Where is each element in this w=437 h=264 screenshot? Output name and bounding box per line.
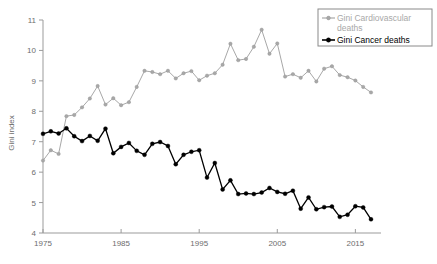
y-tick-label: 10 bbox=[27, 46, 36, 55]
x-tick-label: 1995 bbox=[190, 239, 208, 248]
data-point-cancer bbox=[260, 191, 264, 195]
data-point-cancer bbox=[361, 205, 365, 209]
data-point-cancer bbox=[57, 132, 61, 136]
data-point-cvd bbox=[307, 69, 310, 72]
data-point-cancer bbox=[182, 153, 186, 157]
data-point-cancer bbox=[135, 149, 139, 153]
data-point-cvd bbox=[197, 79, 200, 82]
data-point-cvd bbox=[221, 63, 224, 66]
data-point-cancer bbox=[369, 217, 373, 221]
data-point-cancer bbox=[267, 186, 271, 190]
y-axis: 4567891011 bbox=[27, 16, 43, 238]
line-chart: 4567891011 19751985199520052015 Gini Car… bbox=[0, 0, 437, 264]
data-point-cancer bbox=[197, 148, 201, 152]
data-point-cvd bbox=[330, 65, 333, 68]
data-point-cancer bbox=[49, 129, 53, 133]
data-point-cvd bbox=[283, 75, 286, 78]
data-point-cancer bbox=[353, 204, 357, 208]
y-tick-label: 8 bbox=[32, 107, 37, 116]
data-point-cvd bbox=[244, 57, 247, 60]
x-tick-label: 2015 bbox=[346, 239, 364, 248]
data-point-cancer bbox=[111, 151, 115, 155]
data-point-cvd bbox=[73, 113, 76, 116]
data-point-cancer bbox=[252, 192, 256, 196]
chart-container: 4567891011 19751985199520052015 Gini Car… bbox=[0, 0, 437, 264]
data-point-cancer bbox=[119, 145, 123, 149]
data-point-cvd bbox=[182, 72, 185, 75]
legend-marker-dot-cancer bbox=[326, 38, 330, 42]
data-point-cancer bbox=[221, 187, 225, 191]
y-tick-label: 6 bbox=[32, 168, 37, 177]
data-point-cancer bbox=[322, 205, 326, 209]
data-point-cancer bbox=[346, 213, 350, 217]
data-point-cvd bbox=[135, 85, 138, 88]
data-point-cvd bbox=[291, 72, 294, 75]
data-point-cvd bbox=[260, 28, 263, 31]
data-point-cancer bbox=[244, 191, 248, 195]
data-point-cvd bbox=[276, 42, 279, 45]
y-tick-label: 11 bbox=[28, 16, 37, 25]
data-point-cvd bbox=[80, 106, 83, 109]
x-tick-label: 1975 bbox=[34, 239, 52, 248]
data-point-cvd bbox=[174, 77, 177, 80]
data-point-cvd bbox=[88, 97, 91, 100]
data-point-cvd bbox=[268, 52, 271, 55]
data-point-cancer bbox=[330, 205, 334, 209]
data-point-cancer bbox=[283, 192, 287, 196]
x-axis: 19751985199520052015 bbox=[34, 229, 381, 248]
y-tick-label: 5 bbox=[32, 199, 37, 208]
data-point-cvd bbox=[119, 104, 122, 107]
data-point-cvd bbox=[338, 73, 341, 76]
data-point-cancer bbox=[96, 139, 100, 143]
data-point-cvd bbox=[65, 114, 68, 117]
data-point-cvd bbox=[166, 69, 169, 72]
legend-marker-dot-cardiovascular bbox=[327, 16, 331, 20]
data-point-cancer bbox=[299, 207, 303, 211]
data-point-cancer bbox=[174, 162, 178, 166]
data-point-cancer bbox=[150, 142, 154, 146]
legend-label-cancer: Gini Cancer deaths bbox=[337, 35, 410, 45]
data-point-cancer bbox=[275, 190, 279, 194]
data-point-cvd bbox=[49, 149, 52, 152]
data-point-cvd bbox=[151, 70, 154, 73]
data-point-cvd bbox=[346, 76, 349, 79]
y-tick-label: 4 bbox=[32, 229, 37, 238]
data-point-cvd bbox=[57, 152, 60, 155]
y-tick-label: 7 bbox=[32, 138, 37, 147]
data-point-cancer bbox=[205, 176, 209, 180]
x-tick-label: 1985 bbox=[112, 239, 130, 248]
chart-legend: Gini CardiovasculardeathsGini Cancer dea… bbox=[318, 9, 432, 46]
legend-label-cardiovascular: Gini Cardiovascular bbox=[337, 13, 411, 23]
data-point-cvd bbox=[354, 79, 357, 82]
series-line-cvd bbox=[43, 30, 371, 161]
data-point-cvd bbox=[237, 58, 240, 61]
data-point-cancer bbox=[127, 141, 131, 145]
data-point-cvd bbox=[96, 84, 99, 87]
data-point-cvd bbox=[205, 74, 208, 77]
data-point-cancer bbox=[143, 153, 147, 157]
data-point-cvd bbox=[229, 42, 232, 45]
data-point-cancer bbox=[166, 144, 170, 148]
data-point-cvd bbox=[315, 80, 318, 83]
data-point-cancer bbox=[291, 189, 295, 193]
data-point-cancer bbox=[80, 139, 84, 143]
data-point-cvd bbox=[158, 72, 161, 75]
data-point-cvd bbox=[299, 76, 302, 79]
data-point-cancer bbox=[236, 192, 240, 196]
data-point-cvd bbox=[213, 72, 216, 75]
data-point-cvd bbox=[41, 159, 44, 162]
data-point-cancer bbox=[338, 215, 342, 219]
data-point-cvd bbox=[112, 97, 115, 100]
data-point-cancer bbox=[158, 140, 162, 144]
series-layer bbox=[41, 28, 373, 221]
data-point-cvd bbox=[190, 69, 193, 72]
data-point-cvd bbox=[322, 67, 325, 70]
data-point-cancer bbox=[189, 150, 193, 154]
y-tick-label: 9 bbox=[32, 77, 37, 86]
x-tick-label: 2005 bbox=[268, 239, 286, 248]
data-point-cancer bbox=[228, 178, 232, 182]
data-point-cancer bbox=[41, 132, 45, 136]
data-point-cancer bbox=[88, 134, 92, 138]
y-axis-title: Gini index bbox=[7, 115, 16, 151]
data-point-cancer bbox=[307, 195, 311, 199]
